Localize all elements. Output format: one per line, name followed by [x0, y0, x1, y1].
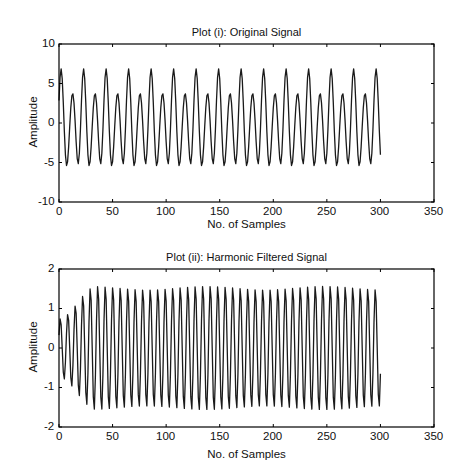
figure: Plot (i): Original Signal No. of Samples…: [0, 0, 466, 474]
signal-line: [59, 287, 380, 410]
plot-2-axes: [59, 269, 434, 427]
chart-canvas: [0, 0, 466, 474]
plot-1-axes: [59, 44, 434, 202]
signal-line: [59, 69, 380, 166]
